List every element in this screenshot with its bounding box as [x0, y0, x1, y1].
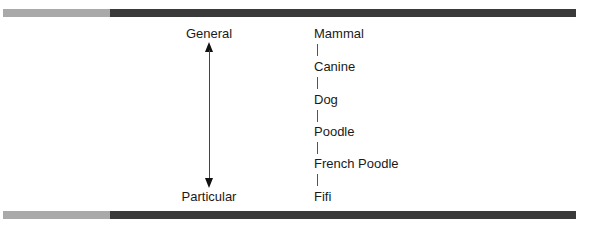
bottom-divider-dark-segment	[110, 211, 576, 219]
hierarchy-connector	[317, 174, 318, 186]
hierarchy-connector	[317, 77, 318, 89]
arrow-down-icon	[205, 178, 213, 188]
hierarchy-node-dog: Dog	[314, 92, 338, 107]
bottom-divider-bar	[3, 211, 576, 219]
generality-axis-line	[209, 50, 210, 183]
top-divider-bar	[3, 9, 576, 17]
hierarchy-node-poodle: Poodle	[314, 124, 354, 139]
general-label: General	[186, 26, 232, 41]
hierarchy-node-mammal: Mammal	[314, 26, 364, 41]
hierarchy-connector	[317, 142, 318, 154]
hierarchy-node-fifi: Fifi	[314, 189, 331, 204]
hierarchy-node-french-poodle: French Poodle	[314, 156, 399, 171]
hierarchy-connector	[317, 44, 318, 56]
top-divider-dark-segment	[110, 9, 576, 17]
top-divider-light-segment	[3, 9, 110, 17]
hierarchy-node-canine: Canine	[314, 59, 355, 74]
bottom-divider-light-segment	[3, 211, 110, 219]
hierarchy-connector	[317, 110, 318, 122]
particular-label: Particular	[182, 189, 237, 204]
